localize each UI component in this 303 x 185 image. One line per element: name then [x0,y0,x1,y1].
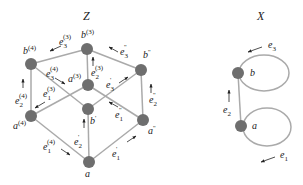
svg-text:e2'': e2'' [149,91,157,108]
arrow-icon [127,136,136,142]
svg-text:e3'': e3'' [120,43,128,60]
node-a4 [25,110,37,122]
edge-label-e3-p: e3' [106,76,128,93]
label-app: a'' [148,124,156,136]
arrow-icon [61,149,70,155]
svg-text:e1(3): e1(3) [43,85,56,102]
edge-a3-a4 [31,85,88,116]
edge-label-e2-3: e2(3) [91,57,104,81]
label-bpp: b'' [143,48,151,60]
graph-x-title: X [256,9,265,23]
edge-label-e1-pp: e1'' [109,102,123,123]
loop-e3 [239,55,289,91]
svg-text:e3': e3' [106,76,114,93]
label-a: a [252,120,257,131]
graph-x-edges [238,55,291,146]
edge-b4-b3 [31,49,87,64]
arrow-icon [109,47,118,52]
loop-e1 [243,108,291,146]
node-bp [82,103,94,115]
node-a3 [82,79,94,91]
graph-z: Z b(3) b(4) b'' [13,9,157,179]
edge-a4-a [31,116,89,162]
svg-text:e3(3): e3(3) [59,33,72,50]
edge-label-e3-4: e3(4) [46,65,65,84]
label-bp: b' [90,114,96,126]
svg-text:e3: e3 [268,39,276,53]
label-a4: a(4) [13,119,27,131]
graph-x: X b a e3 e2 e1 [223,9,291,163]
svg-text:e2': e2' [74,133,82,150]
svg-text:e2(4): e2(4) [15,92,28,109]
edge-b4-bp [31,64,88,109]
edge-bp-a [88,109,89,162]
edge-label-e2-pp: e2'' [149,84,157,108]
svg-text:e1'': e1'' [115,106,123,123]
node-a [235,120,247,132]
node-b [232,67,244,79]
edge-label-x-e1: e1 [261,149,288,163]
edge-label-e1-4: e1(4) [43,138,70,155]
node-a [83,156,95,168]
svg-text:e1: e1 [280,149,288,163]
graph-z-title: Z [83,9,90,23]
label-a: a [85,168,90,179]
arrow-icon [50,46,61,51]
node-bpp [135,64,147,76]
label-b4: b(4) [23,44,37,56]
edge-label-e2-4: e2(4) [15,79,28,109]
arrow-icon [55,78,65,84]
edge-label-x-e2: e2 [223,90,231,118]
edge-label-e2-p: e2' [74,119,84,150]
node-b3 [81,43,93,55]
label-b: b [250,67,255,78]
covering-graph-diagram: Z b(3) b(4) b'' [0,0,303,185]
svg-text:e2(3): e2(3) [91,64,104,81]
edge-label-e1-p: e1' [112,136,136,162]
edge-e2 [238,73,241,126]
arrow-icon [261,157,275,162]
edge-label-e3-pp: e3'' [109,43,128,60]
label-b3: b(3) [81,28,95,40]
svg-text:e1(4): e1(4) [43,138,56,155]
node-b4 [25,58,37,70]
edge-bpp-app [141,70,143,120]
svg-text:e1': e1' [112,145,120,162]
edge-label-x-e3: e3 [248,39,276,53]
arrow-icon [35,102,45,108]
svg-text:e2: e2 [223,104,231,118]
edge-label-e3-3: e3(3) [50,33,72,51]
arrow-icon [248,47,262,52]
label-a3: a(3) [68,72,82,84]
